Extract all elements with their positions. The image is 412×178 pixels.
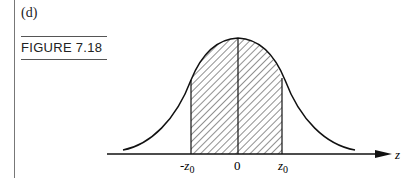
tick-neg-z0: -z0: [180, 158, 194, 175]
tick-pos-z0: z0: [277, 158, 288, 175]
axis-label-z: z: [394, 147, 400, 162]
normal-curve-diagram: z -z0 0 z0: [0, 0, 412, 178]
tick-zero: 0: [234, 158, 241, 173]
axis-arrow-icon: [375, 150, 392, 158]
